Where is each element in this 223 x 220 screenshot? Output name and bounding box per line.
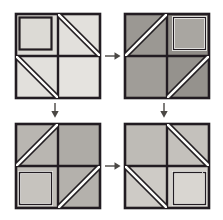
arrow-right-bottom-icon bbox=[104, 160, 123, 172]
block-bottom-right bbox=[122, 121, 212, 211]
arrow-down-left-icon bbox=[49, 102, 61, 120]
block-top-left bbox=[13, 11, 103, 101]
arrow-down-right-icon bbox=[158, 102, 170, 120]
rotation-diagram bbox=[0, 0, 223, 220]
arrow-right-top-icon bbox=[104, 50, 123, 62]
block-top-right bbox=[122, 11, 212, 101]
block-bottom-left bbox=[13, 121, 103, 211]
